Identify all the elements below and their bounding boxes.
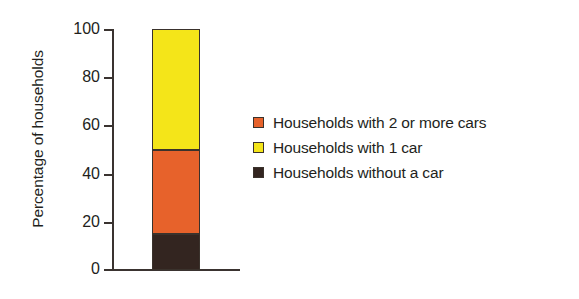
y-tick-label-100: 100 <box>56 21 100 37</box>
y-tick-mark-100 <box>104 29 113 31</box>
bar-segment-households-without-a-car[interactable] <box>152 234 200 270</box>
bar-segment-households-with-2-or-more-cars[interactable] <box>152 150 200 234</box>
y-tick-mark-20 <box>104 222 113 224</box>
y-tick-label-0: 0 <box>56 261 100 277</box>
legend-item-households-without-a-car[interactable]: Households without a car <box>253 160 486 185</box>
y-tick-label-80: 80 <box>56 69 100 85</box>
legend-swatch-icon-dark <box>253 167 264 178</box>
legend-swatch-icon-yellow <box>253 142 264 153</box>
y-tick-mark-60 <box>104 125 113 127</box>
y-tick-label-20: 20 <box>56 214 100 230</box>
bar-segment-households-with-1-car[interactable] <box>152 29 200 150</box>
y-tick-mark-80 <box>104 77 113 79</box>
legend-swatch-icon-orange <box>253 117 264 128</box>
legend: Households with 2 or more cars Household… <box>253 110 486 185</box>
y-tick-mark-0 <box>104 269 113 271</box>
y-axis-line <box>112 29 114 271</box>
y-tick-label-60: 60 <box>56 117 100 133</box>
y-tick-mark-40 <box>104 174 113 176</box>
stacked-bar[interactable] <box>152 29 200 270</box>
y-tick-label-40: 40 <box>56 166 100 182</box>
legend-item-households-with-2-or-more-cars[interactable]: Households with 2 or more cars <box>253 110 486 135</box>
legend-label-1: Households with 1 car <box>273 140 422 156</box>
legend-label-0: Households with 2 or more cars <box>273 115 486 131</box>
legend-label-2: Households without a car <box>273 165 443 181</box>
legend-item-households-with-1-car[interactable]: Households with 1 car <box>253 135 486 160</box>
